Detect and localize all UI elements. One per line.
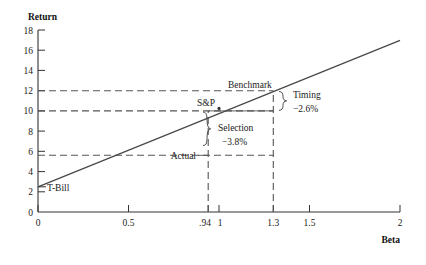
point-markers — [38, 107, 221, 187]
chart-canvas: 18 16 14 12 10 8 6 4 2 0 0 0.5 .94 1 1.3 — [0, 0, 426, 265]
x-axis-title: Beta — [382, 235, 401, 245]
security-market-line — [38, 40, 400, 186]
x-tick-label-1p5: 1.5 — [304, 218, 316, 228]
x-tick-label-0p5: 0.5 — [123, 218, 135, 228]
selection-value-label: −3.8% — [222, 137, 247, 147]
y-tick-label-4: 4 — [28, 167, 33, 177]
x-axis-tick-labels: 0 0.5 .94 1 1.3 1.5 2 — [36, 218, 403, 228]
x-tick-label-0p94: .94 — [199, 218, 211, 228]
y-tick-label-0: 0 — [28, 208, 33, 218]
x-tick-label-1: 1 — [218, 218, 223, 228]
x-tick-label-1p3: 1.3 — [267, 218, 279, 228]
y-tick-label-10: 10 — [24, 106, 34, 116]
reference-lines — [38, 91, 273, 212]
y-tick-label-8: 8 — [28, 127, 33, 137]
timing-value-label: −2.6% — [293, 104, 318, 114]
security-market-line-chart: 18 16 14 12 10 8 6 4 2 0 0 0.5 .94 1 1.3 — [0, 0, 426, 265]
sp-point-marker — [217, 107, 220, 110]
x-tick-label-2: 2 — [398, 218, 403, 228]
y-tick-label-6: 6 — [28, 147, 33, 157]
x-axis-ticks — [38, 205, 400, 212]
timing-brace — [279, 92, 287, 111]
benchmark-label: Benchmark — [228, 80, 272, 90]
t-bill-label: T-Bill — [47, 183, 70, 193]
sp-label: S&P — [197, 98, 215, 108]
y-tick-label-12: 12 — [24, 86, 34, 96]
selection-label: Selection — [218, 123, 254, 133]
y-tick-label-14: 14 — [24, 66, 34, 76]
y-axis-tick-labels: 18 16 14 12 10 8 6 4 2 0 — [24, 26, 34, 218]
actual-label: Actual — [171, 151, 197, 161]
timing-label: Timing — [293, 90, 321, 100]
y-axis-title: Return — [28, 12, 58, 22]
y-tick-label-16: 16 — [24, 46, 34, 56]
y-tick-label-18: 18 — [24, 26, 34, 36]
y-tick-label-2: 2 — [28, 187, 33, 197]
axes — [38, 30, 400, 212]
timing-brace-glyph — [279, 92, 287, 111]
x-tick-label-0: 0 — [36, 218, 41, 228]
